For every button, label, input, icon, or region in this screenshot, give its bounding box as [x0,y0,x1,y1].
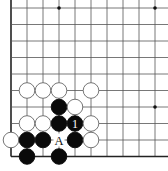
black-stone [67,132,83,148]
point-labels: A [54,134,65,148]
white-stone [67,99,83,115]
white-stone [83,132,99,148]
point-label-a: A [54,134,63,148]
white-stone [35,83,51,99]
move-number-label: 1 [72,117,78,131]
white-stone [3,132,19,148]
black-stone [19,132,35,148]
black-stone [51,149,67,165]
star-point-icon [153,6,157,10]
star-point-icon [153,105,157,109]
star-point-icon [57,6,61,10]
go-board-diagram: 1 A [0,0,168,171]
black-stone [35,132,51,148]
black-stone: 1 [67,116,83,132]
white-stone [51,83,67,99]
white-stone [35,116,51,132]
black-stone [51,116,67,132]
white-stone [83,116,99,132]
black-stone [51,99,67,115]
white-stone [19,83,35,99]
white-stone [19,116,35,132]
black-stone [19,149,35,165]
white-stone [83,83,99,99]
